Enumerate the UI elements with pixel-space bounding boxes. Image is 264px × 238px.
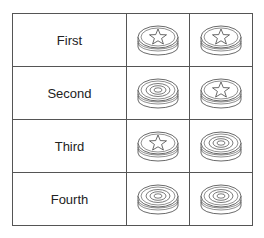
row-label-cell: First <box>13 14 127 67</box>
table-row: Second <box>13 67 253 120</box>
piece-cell <box>190 67 253 120</box>
row-label: First <box>57 33 82 48</box>
piece-cell <box>127 173 190 226</box>
row-label-cell: Fourth <box>13 173 127 226</box>
piece-cell <box>190 173 253 226</box>
piece-cell <box>190 14 253 67</box>
rings-checker-icon <box>136 75 180 111</box>
checker-piece-table: FirstSecondThirdFourth <box>12 13 253 226</box>
rings-checker-icon <box>199 128 243 164</box>
row-label-cell: Third <box>13 120 127 173</box>
star-checker-icon <box>136 22 180 58</box>
piece-cell <box>127 14 190 67</box>
star-checker-icon <box>136 128 180 164</box>
row-label: Third <box>55 139 85 154</box>
row-label-cell: Second <box>13 67 127 120</box>
piece-cell <box>190 120 253 173</box>
row-label: Fourth <box>51 192 89 207</box>
table-row: Third <box>13 120 253 173</box>
star-checker-icon <box>199 22 243 58</box>
table-row: First <box>13 14 253 67</box>
star-checker-icon <box>199 75 243 111</box>
rings-checker-icon <box>136 181 180 217</box>
piece-cell <box>127 120 190 173</box>
rings-checker-icon <box>199 181 243 217</box>
table-row: Fourth <box>13 173 253 226</box>
row-label: Second <box>47 86 91 101</box>
piece-cell <box>127 67 190 120</box>
